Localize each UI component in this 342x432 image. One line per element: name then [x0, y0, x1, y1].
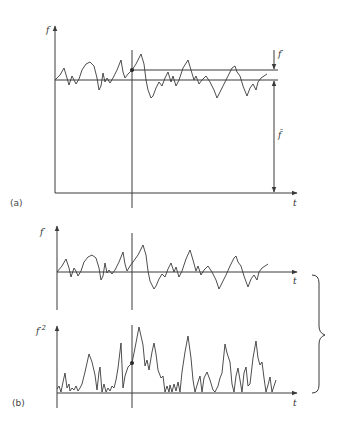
panel-a-label: (a): [10, 198, 23, 208]
signal-f-prime-squared: [57, 327, 276, 392]
f-prime-squared-axis-label: f′2: [35, 324, 46, 336]
t-axis-label-lower: t: [293, 398, 297, 408]
f-prime-label: f′: [277, 49, 283, 59]
f-prime-axis-label: f′: [39, 227, 45, 237]
panel-b-label: (b): [12, 398, 25, 408]
f-bar-label: f̄: [277, 129, 284, 140]
signal-f: [55, 54, 267, 98]
t-axis-label-upper: t: [293, 276, 297, 286]
panel-a: f′ f̄ f t (a): [10, 25, 297, 208]
right-brace: [312, 275, 325, 393]
signal-f-prime: [57, 245, 268, 289]
panel-b-upper: f′ t: [39, 226, 297, 310]
t-axis-label: t: [293, 198, 297, 208]
panel-b-lower: f′2 t (b): [12, 324, 297, 408]
turbulence-fluctuation-diagram: f′ f̄ f t (a) f′ t f′2 t (b): [0, 0, 342, 432]
f-axis-label: f: [45, 25, 51, 35]
